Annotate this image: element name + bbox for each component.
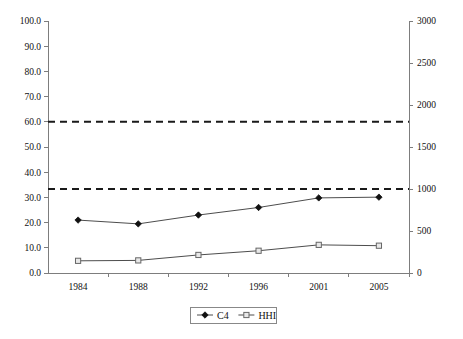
- data-series: [75, 194, 382, 263]
- left-axis-tick-label: 10.0: [24, 243, 41, 253]
- x-axis-tick-label: 2001: [309, 282, 328, 292]
- right-axis-tick-label: 500: [417, 226, 432, 236]
- x-axis: 198419881992199620012005: [48, 273, 409, 292]
- legend-label-c4: C4: [217, 310, 229, 321]
- left-axis-tick-label: 0.0: [29, 268, 41, 278]
- line-chart: 0.010.020.030.040.050.060.070.080.090.01…: [0, 0, 463, 339]
- x-axis-tick-label: 1992: [189, 282, 208, 292]
- data-point-hhi: [376, 243, 381, 248]
- series-line-hhi: [78, 245, 379, 261]
- data-point-c4: [376, 194, 382, 200]
- data-point-hhi: [136, 258, 141, 263]
- left-axis-tick-label: 30.0: [24, 193, 41, 203]
- right-axis: 050010001500200025003000: [409, 16, 436, 278]
- x-axis-tick-label: 1996: [249, 282, 268, 292]
- right-axis-tick-label: 1500: [417, 142, 436, 152]
- chart-legend: C4HHI: [190, 307, 276, 323]
- left-axis-tick-label: 20.0: [24, 218, 41, 228]
- reference-lines: [48, 122, 409, 189]
- right-axis-tick-label: 2000: [417, 100, 436, 110]
- data-point-c4: [135, 221, 141, 227]
- x-axis-tick-label: 1988: [129, 282, 148, 292]
- series-line-c4: [78, 197, 379, 224]
- data-point-c4: [75, 217, 81, 223]
- data-point-c4: [255, 204, 261, 210]
- data-point-hhi: [316, 242, 321, 247]
- left-axis-tick-label: 60.0: [24, 117, 41, 127]
- right-axis-tick-label: 0: [417, 268, 422, 278]
- left-axis-tick-label: 50.0: [24, 142, 41, 152]
- data-point-hhi: [196, 252, 201, 257]
- right-axis-tick-label: 1000: [417, 184, 436, 194]
- chart-container: 0.010.020.030.040.050.060.070.080.090.01…: [0, 0, 463, 339]
- left-axis-tick-label: 90.0: [24, 42, 41, 52]
- data-point-hhi: [256, 248, 261, 253]
- data-point-hhi: [75, 258, 80, 263]
- x-axis-tick-label: 1984: [69, 282, 88, 292]
- data-point-c4: [195, 212, 201, 218]
- legend-label-hhi: HHI: [258, 310, 276, 321]
- right-axis-tick-label: 3000: [417, 16, 436, 26]
- left-axis-tick-label: 80.0: [24, 67, 41, 77]
- right-axis-tick-label: 2500: [417, 58, 436, 68]
- left-axis-tick-label: 40.0: [24, 168, 41, 178]
- left-axis: 0.010.020.030.040.050.060.070.080.090.01…: [20, 16, 48, 278]
- left-axis-tick-label: 70.0: [24, 92, 41, 102]
- legend-marker-hhi: [244, 312, 249, 317]
- x-axis-tick-label: 2005: [369, 282, 388, 292]
- left-axis-tick-label: 100.0: [20, 16, 42, 26]
- data-point-c4: [316, 195, 322, 201]
